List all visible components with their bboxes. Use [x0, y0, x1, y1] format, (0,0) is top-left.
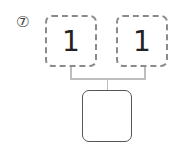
top-left-part-box: 1 — [45, 15, 97, 67]
connector-center-vertical — [107, 78, 109, 90]
top-left-value: 1 — [62, 25, 80, 58]
problem-number: ⑦ — [16, 15, 29, 30]
answer-box[interactable] — [82, 90, 132, 142]
top-right-part-box: 1 — [116, 15, 168, 67]
top-right-value: 1 — [133, 25, 151, 58]
